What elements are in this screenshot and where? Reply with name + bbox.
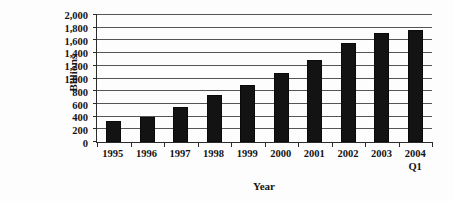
x-axis-tick-label: 2002 (331, 147, 365, 181)
x-axis-tick-label-line1: 1999 (237, 148, 258, 159)
x-axis-tick-label: 1995 (96, 147, 130, 181)
x-axis-tick-label: 1999 (230, 147, 264, 181)
bar (408, 30, 423, 142)
y-axis-tick-label: 600 (72, 99, 88, 110)
x-axis-tick-label-line2: Q1 (398, 160, 432, 173)
bar-slot (97, 15, 131, 142)
x-axis-tick-label-line1: 1998 (203, 148, 224, 159)
bar-slot (198, 15, 232, 142)
x-axis-tick-label: 2003 (365, 147, 399, 181)
bar-slot (131, 15, 165, 142)
x-axis-tick-label-line1: 2002 (337, 148, 358, 159)
bar (307, 60, 322, 142)
x-axis-title: Year (96, 180, 432, 192)
y-axis-tick-label: 1,600 (64, 35, 88, 46)
x-axis-tick-label: 1998 (197, 147, 231, 181)
plot-area (96, 15, 432, 143)
bar-slot (298, 15, 332, 142)
y-axis-tick-label: 800 (72, 86, 88, 97)
y-axis-tick-label: 1,200 (64, 61, 88, 72)
bar (374, 33, 389, 142)
y-axis-tick-label: 1,000 (64, 74, 88, 85)
bars-container (97, 15, 432, 142)
bar-slot (231, 15, 265, 142)
y-axis-tick-label: 1,400 (64, 48, 88, 59)
x-axis-tick-label: 2001 (298, 147, 332, 181)
x-axis-tick-label-line1: 1996 (136, 148, 157, 159)
bar (207, 95, 222, 142)
bar-slot (265, 15, 299, 142)
x-axis-tick-label-line1: 2001 (304, 148, 325, 159)
bar-slot (332, 15, 366, 142)
y-axis-tick-label: 400 (72, 112, 88, 123)
x-axis-tick-label-line1: 2003 (371, 148, 392, 159)
bar (274, 73, 289, 142)
x-axis-tick-label: 1997 (163, 147, 197, 181)
bar (106, 121, 121, 142)
x-axis-tick-label: 1996 (130, 147, 164, 181)
x-axis-tick-label: 2004Q1 (398, 147, 432, 181)
bar (140, 117, 155, 142)
x-axis-tick-label-line1: 2000 (270, 148, 291, 159)
x-axis-tick-mark (432, 142, 433, 147)
y-axis-tick-labels: 02004006008001,0001,2001,4001,6001,8002,… (44, 9, 92, 137)
x-axis-tick-label-line1: 1995 (102, 148, 123, 159)
bar (173, 107, 188, 142)
x-axis-tick-label-line1: 2004 (405, 148, 426, 159)
x-axis-tick-label: 2000 (264, 147, 298, 181)
y-axis-tick-label: 0 (83, 138, 88, 149)
y-axis-tick-label: 200 (72, 125, 88, 136)
y-axis-tick-label: 2,000 (64, 10, 88, 21)
bar (341, 43, 356, 142)
x-axis-tick-labels: 1995199619971998199920002001200220032004… (96, 147, 432, 181)
x-axis-tick-label-line1: 1997 (169, 148, 190, 159)
bar-chart-figure: Billions 02004006008001,0001,2001,4001,6… (0, 0, 453, 201)
bar-slot (399, 15, 433, 142)
y-axis-tick-label: 1,800 (64, 22, 88, 33)
bar-slot (164, 15, 198, 142)
bar-slot (365, 15, 399, 142)
bar (240, 85, 255, 142)
